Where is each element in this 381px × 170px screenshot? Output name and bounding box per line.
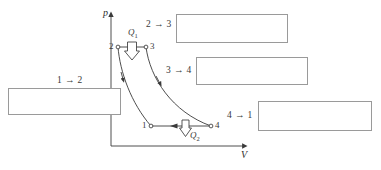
answer-box-3-4[interactable] xyxy=(196,57,308,85)
state-point-4-marker xyxy=(209,124,213,128)
thermodynamic-cycle-figure: p V 2 3 1 4 Q1 Q2 1 → 2 2 → 3 3 → 4 4 → … xyxy=(0,0,381,170)
heat-label-q1-subscript: 1 xyxy=(135,32,138,39)
segment-4-1-arrowhead xyxy=(170,123,178,128)
state-point-2-marker xyxy=(116,45,120,49)
state-point-label-2: 2 xyxy=(109,42,114,51)
answer-box-4-1[interactable] xyxy=(258,101,372,131)
state-point-3-marker xyxy=(144,45,148,49)
state-point-label-3: 3 xyxy=(150,42,155,51)
pressure-axis-label: p xyxy=(103,8,108,18)
answer-box-1-2[interactable] xyxy=(8,88,121,115)
process-label-1-2: 1 → 2 xyxy=(57,76,83,86)
volume-axis-label: V xyxy=(241,150,247,160)
process-label-2-3: 2 → 3 xyxy=(146,20,172,30)
answer-box-2-3[interactable] xyxy=(176,14,288,43)
heat-input-arrow-q1 xyxy=(125,42,140,60)
state-point-1-marker xyxy=(149,124,153,128)
process-label-3-4: 3 → 4 xyxy=(166,66,192,76)
heat-label-q2-subscript: 2 xyxy=(197,135,200,142)
heat-label-q1: Q1 xyxy=(128,28,138,39)
process-label-4-1: 4 → 1 xyxy=(227,111,253,121)
state-point-label-1: 1 xyxy=(142,121,147,130)
isotherm-curve-2-1 xyxy=(118,47,151,126)
state-point-label-4: 4 xyxy=(215,121,220,130)
heat-label-q2: Q2 xyxy=(190,131,200,142)
